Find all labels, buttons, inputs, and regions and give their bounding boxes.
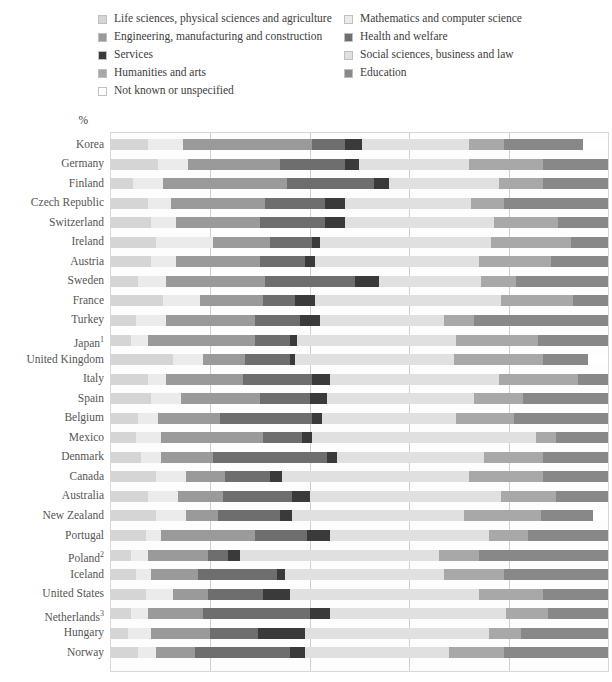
legend-item-eng[interactable]: Engineering, manufacturing and construct… — [98, 31, 344, 43]
country-label-iceland: Iceland — [0, 569, 104, 580]
bar-segment-edu — [543, 354, 588, 365]
bar-segment-edu — [528, 530, 608, 541]
bar-segment-life — [111, 198, 148, 209]
bar-segment-social — [320, 315, 444, 326]
stacked-bar-switzerland — [111, 217, 608, 228]
country-label-denmark: Denmark — [0, 451, 104, 462]
stacked-bar-finland — [111, 178, 608, 189]
bar-segment-life — [111, 139, 148, 150]
bar-segment-life — [111, 159, 158, 170]
bar-row — [111, 471, 608, 482]
bar-segment-eng — [158, 413, 220, 424]
bar-segment-eng — [186, 471, 226, 482]
bar-segment-eng — [166, 374, 243, 385]
bar-segment-eng — [148, 550, 208, 561]
legend-item-hum[interactable]: Humanities and arts — [98, 67, 344, 79]
bar-segment-math — [148, 491, 178, 502]
legend-item-serv[interactable]: Services — [98, 49, 344, 61]
bar-segment-math — [156, 237, 213, 248]
bar-segment-serv — [295, 295, 315, 306]
legend-item-health[interactable]: Health and welfare — [344, 31, 584, 43]
bar-row — [111, 647, 608, 658]
bar-segment-health — [225, 471, 270, 482]
bar-segment-edu — [516, 276, 608, 287]
bar-segment-math — [131, 550, 148, 561]
bar-segment-health — [223, 491, 293, 502]
bar-segment-life — [111, 432, 136, 443]
country-label-new-zealand: New Zealand — [0, 510, 104, 521]
bar-row — [111, 256, 608, 267]
bar-segment-life — [111, 315, 136, 326]
bar-segment-life — [111, 217, 151, 228]
legend-item-math[interactable]: Mathematics and computer science — [344, 13, 584, 25]
country-label-portugal: Portugal — [0, 530, 104, 541]
bar-segment-eng — [181, 393, 261, 404]
legend-item-life[interactable]: Life sciences, physical sciences and agr… — [98, 13, 344, 25]
bar-segment-life — [111, 471, 156, 482]
bar-segment-health — [312, 139, 344, 150]
bar-segment-serv — [374, 178, 389, 189]
bar-segment-health — [260, 393, 310, 404]
stacked-bar-italy — [111, 374, 608, 385]
bar-segment-serv — [312, 237, 319, 248]
stacked-bar-turkey — [111, 315, 608, 326]
plot-area — [110, 132, 609, 672]
bar-segment-hum — [499, 374, 579, 385]
country-label-hungary: Hungary — [0, 627, 104, 638]
bar-segment-math — [138, 276, 165, 287]
legend-row: Humanities and artsEducation — [98, 64, 612, 82]
bar-row — [111, 315, 608, 326]
bar-segment-social — [282, 471, 468, 482]
bar-segment-health — [195, 647, 289, 658]
bar-segment-health — [263, 295, 295, 306]
stacked-bar-portugal — [111, 530, 608, 541]
legend-item-unknown[interactable]: Not known or unspecified — [98, 85, 344, 97]
bar-segment-life — [111, 491, 148, 502]
stacked-bar-czech-republic — [111, 198, 608, 209]
bar-segment-social — [305, 647, 449, 658]
bar-segment-serv — [310, 608, 330, 619]
bar-segment-edu — [543, 178, 608, 189]
bar-segment-eng — [186, 510, 218, 521]
country-label-finland: Finland — [0, 178, 104, 189]
bar-segment-edu — [504, 139, 584, 150]
legend-row: ServicesSocial sciences, business and la… — [98, 46, 612, 64]
bar-segment-hum — [444, 315, 474, 326]
bar-segment-serv — [292, 491, 309, 502]
legend-swatch-edu-icon — [344, 69, 353, 78]
bar-segment-math — [131, 335, 148, 346]
bar-segment-edu — [538, 335, 608, 346]
bar-segment-social — [310, 491, 501, 502]
bar-row — [111, 491, 608, 502]
bar-segment-serv — [258, 628, 305, 639]
bar-segment-eng — [166, 315, 255, 326]
legend-swatch-math-icon — [344, 15, 353, 24]
bar-segment-edu — [556, 432, 608, 443]
chart-legend: Life sciences, physical sciences and agr… — [0, 10, 612, 100]
stacked-bar-ireland — [111, 237, 608, 248]
bar-row — [111, 432, 608, 443]
bar-row — [111, 295, 608, 306]
bar-segment-hum — [444, 569, 504, 580]
bar-segment-health — [203, 608, 310, 619]
bar-segment-edu — [543, 471, 608, 482]
bar-segment-social — [320, 237, 491, 248]
bar-segment-math — [146, 530, 161, 541]
country-label-italy: Italy — [0, 373, 104, 384]
bar-segment-eng — [200, 295, 262, 306]
bar-segment-social — [359, 159, 468, 170]
legend-row: Not known or unspecified — [98, 82, 612, 100]
stacked-bar-mexico — [111, 432, 608, 443]
bar-rows — [111, 133, 608, 671]
stacked-bar-japan — [111, 335, 608, 346]
bar-row — [111, 413, 608, 424]
stacked-bar-spain — [111, 393, 608, 404]
bar-segment-social — [379, 276, 481, 287]
legend-item-social[interactable]: Social sciences, business and law — [344, 49, 584, 61]
bar-segment-serv — [325, 217, 345, 228]
bar-segment-social — [295, 354, 454, 365]
legend-item-edu[interactable]: Education — [344, 67, 584, 79]
country-label-canada: Canada — [0, 471, 104, 482]
bar-segment-social — [322, 413, 456, 424]
bar-segment-eng — [148, 608, 203, 619]
